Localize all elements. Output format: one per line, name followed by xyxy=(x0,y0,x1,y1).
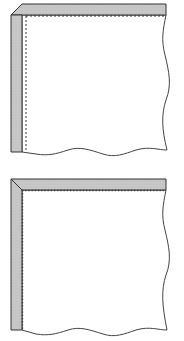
fabric-body xyxy=(22,190,169,336)
diagram-canvas xyxy=(0,0,184,341)
figure-lapped-corner xyxy=(11,4,169,156)
top-binding-strip xyxy=(11,4,166,15)
left-binding-strip xyxy=(11,15,22,152)
figure-mitered-corner xyxy=(11,179,169,336)
fabric-body xyxy=(22,15,169,156)
top-binding-strip xyxy=(11,179,166,190)
left-binding-strip xyxy=(11,179,22,330)
